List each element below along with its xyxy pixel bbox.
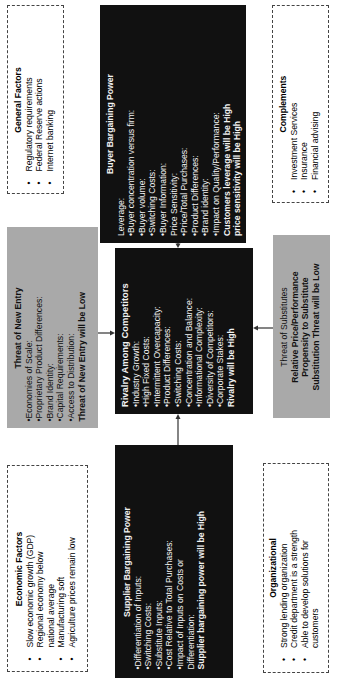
rivalry-line: •Corporate Stakes: — [215, 255, 226, 407]
supplier-line: Differentiation: — [186, 454, 197, 669]
buyer-line: •Brand identity: — [200, 12, 211, 236]
economic-factor-item: Regional economy below national average — [34, 537, 55, 662]
rivalry-title: Rivalry Among Competitors — [120, 255, 131, 407]
rivalry-line: •Informational Complexity: — [194, 255, 205, 407]
buyer-line: •Buyer volume: — [137, 12, 148, 236]
supplier-conclusion: Supplier bargaining power will be High — [196, 454, 207, 669]
supplier-power-title: Supplier Bargaining Power — [122, 454, 133, 669]
new-entry-line: •Brand Identity: — [44, 234, 55, 421]
new-entry-title: Threat of New Entry — [12, 234, 23, 421]
new-entry-conclusion: Threat of New Entry will be Low — [76, 234, 87, 421]
economic-factor-item: Manufacturing soft — [55, 475, 66, 662]
rivalry-line: •Intermittent Overcapacity: — [152, 255, 163, 407]
organizational-box: Organizational Strong lending organizati… — [263, 463, 329, 673]
threat-of-new-entry-box: Threat of New Entry •Economies of Scale:… — [7, 227, 98, 428]
economic-factors-title: Economic Factors — [13, 475, 24, 662]
complement-item: Investment Services — [288, 13, 299, 195]
rivalry-line: •Industry Growth: — [131, 255, 142, 407]
buyer-line: •Buyer Information: — [158, 12, 169, 236]
general-factors-box: General Factors Regulatory requirements … — [7, 5, 64, 194]
supplier-line: •Differentiation of Inputs: — [133, 454, 144, 669]
rivalry-line: •Diversity of Competitors: — [205, 255, 216, 407]
organizational-item: Strong lending organization — [279, 473, 290, 663]
threat-of-substitutes-box: Threat of Substitutes Relative Price/Per… — [273, 235, 330, 418]
buyer-line: Price Sensitivity: — [169, 12, 180, 236]
supplier-line: •Switching Costs: — [143, 454, 154, 669]
organizational-item: Credit department is a strength — [289, 473, 300, 663]
new-entry-line: •Capital Requirements: — [54, 234, 65, 421]
new-entry-line: •Access to Distribution: — [65, 234, 76, 421]
substitutes-line: Propensity to Substitute — [299, 240, 310, 413]
complements-title: Complements — [277, 13, 288, 195]
buyer-line: •Buyer concentration versus firm: — [126, 12, 137, 236]
complements-box: Complements Investment Services Insuranc… — [272, 5, 329, 203]
complement-item: Financial advising — [309, 13, 320, 195]
substitutes-line: Relative Price/Performance — [289, 240, 300, 413]
substitutes-conclusion: Substitution Threat will be Low — [310, 240, 321, 413]
new-entry-line: •Proprietary Product Differences: — [33, 234, 44, 421]
organizational-title: Organizational — [268, 473, 279, 663]
substitutes-title: Threat of Substitutes — [278, 240, 289, 413]
rivalry-line: •High Fixed Costs: — [141, 255, 152, 407]
economic-factor-item: Agriculture prices remain low — [66, 475, 77, 662]
buyer-line: •Price/Total Purchases: — [179, 12, 190, 236]
economic-factors-box: Economic Factors Slow economic growth (G… — [7, 465, 88, 672]
general-factors-title: General Factors — [12, 13, 23, 186]
supplier-line: •Cost Relative to Total Purchases: — [164, 454, 175, 669]
buyer-line: •Switching Costs: — [147, 12, 158, 236]
rivalry-line: •Concentration and Balance: — [184, 255, 195, 407]
economic-factor-item: Slow economic growth (GDP) — [24, 475, 35, 662]
organizational-item: Able to develop solutions for customers — [300, 518, 321, 663]
buyer-power-title: Buyer Bargaining Power — [105, 12, 116, 236]
rivalry-conclusion: Rivalry will be High — [226, 255, 237, 407]
buyer-bargaining-power-box: Buyer Bargaining Power Leverage: •Buyer … — [100, 5, 246, 243]
supplier-line: •Impact of Inputs on Costs or — [175, 454, 186, 669]
complement-item: Insurance — [298, 13, 309, 195]
supplier-bargaining-power-box: Supplier Bargaining Power •Differentiati… — [115, 445, 233, 678]
general-factor-item: Regulatory requirements — [23, 13, 34, 186]
buyer-line: •Impact on Quality/Performance: — [211, 12, 222, 236]
rivalry-line: •Product Differences: — [162, 255, 173, 407]
new-entry-line: •Economies of Scale: — [23, 234, 34, 421]
general-factor-item: Internet banking — [44, 13, 55, 186]
buyer-conclusion: price sensitivity will be High — [232, 12, 243, 236]
rivalry-line: •Switching Costs: — [173, 255, 184, 407]
supplier-line: •Substitute Inputs: — [154, 454, 165, 669]
general-factor-item: Federal Reserve actions — [33, 13, 44, 186]
buyer-conclusion: Customers leverage will be High — [222, 12, 233, 236]
rivalry-among-competitors-box: Rivalry Among Competitors •Industry Grow… — [115, 248, 253, 414]
buyer-line: •Product Differences: — [190, 12, 201, 236]
buyer-line: Leverage: — [116, 12, 127, 236]
